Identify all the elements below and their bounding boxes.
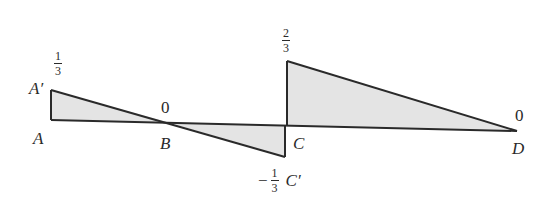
- value-b: 0: [161, 99, 170, 116]
- label-d: D: [512, 140, 524, 157]
- value-c-top: 23: [282, 27, 290, 54]
- numerator: 1: [54, 50, 62, 64]
- influence-line-diagram: 13 A′ A 0 B 23 C − 13 C′ 0 D: [0, 0, 556, 208]
- denominator: 3: [272, 181, 278, 194]
- value-a-prime: 13: [54, 50, 62, 77]
- label-c-prime: C′: [286, 172, 301, 189]
- label-a: A: [33, 130, 43, 147]
- minus-sign: −: [258, 172, 268, 189]
- label-c: C: [293, 135, 304, 152]
- numerator: 1: [271, 167, 279, 181]
- numerator: 2: [282, 27, 290, 41]
- denominator: 3: [55, 64, 61, 77]
- denominator: 3: [283, 41, 289, 54]
- label-b: B: [160, 135, 170, 152]
- label-a-prime: A′: [29, 80, 43, 97]
- value-d: 0: [515, 107, 524, 124]
- value-c-prime: − 13 C′: [258, 167, 301, 194]
